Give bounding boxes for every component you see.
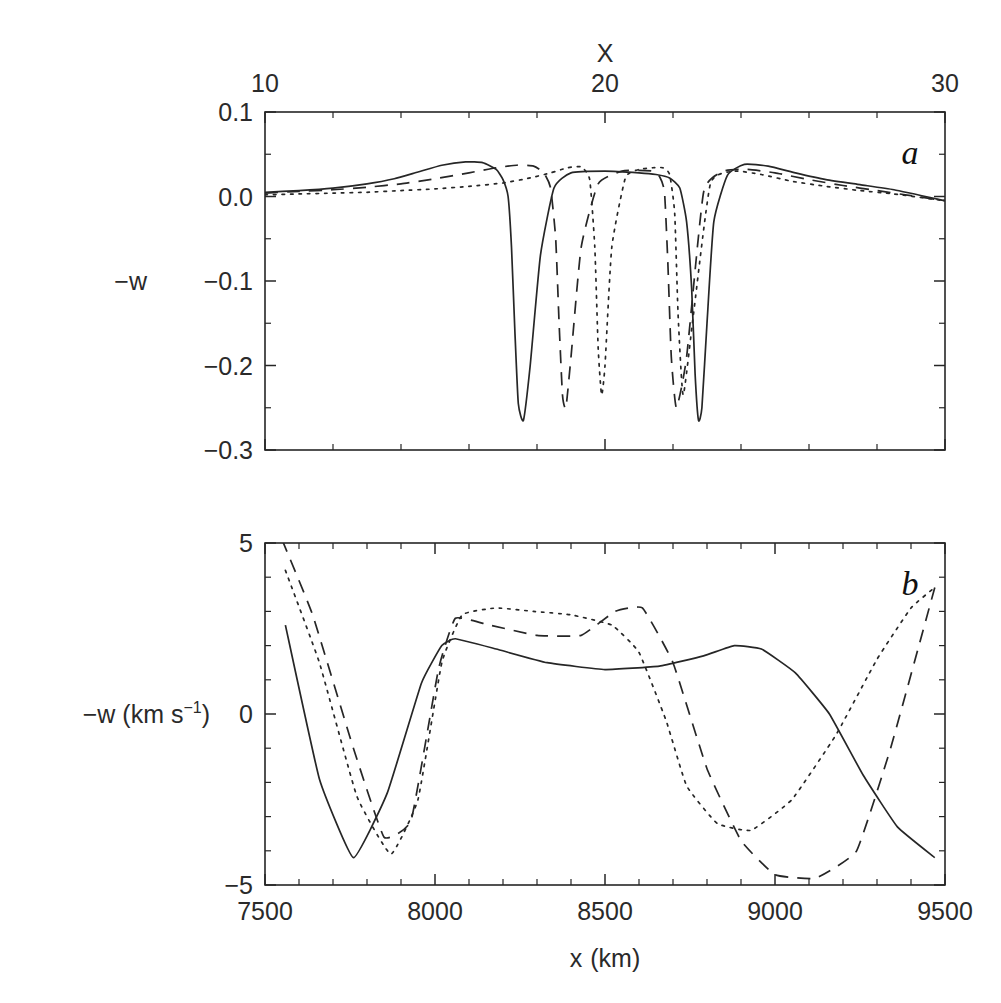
panel-b-curve-solid [285, 625, 934, 858]
panel-a-y-tick-label: −0.3 [204, 436, 253, 464]
scientific-figure: X1020300.10.0−0.1−0.2−0.3−wa750080008500… [0, 0, 1001, 1003]
figure-canvas: X1020300.10.0−0.1−0.2−0.3−wa750080008500… [0, 0, 1001, 1003]
panel-a-label: a [902, 134, 919, 171]
panel-b-y-axis-label: −w (km s−1) [83, 699, 210, 728]
panel-b [265, 543, 945, 885]
panel-b-y-tick-label: 0 [239, 700, 253, 728]
panel-a-curve-dotted [265, 167, 945, 396]
panel-a-y-tick-label: 0.0 [218, 183, 253, 211]
panel-b-frame [265, 543, 945, 885]
panel-a-y-tick-label: 0.1 [218, 98, 253, 126]
panel-b-x-axis-title-text: x(km) [570, 944, 640, 972]
panel-a-y-axis-label: −w [114, 267, 148, 295]
panel-a-curve-dashed [265, 165, 945, 408]
x-symbol: x [570, 944, 583, 972]
panel-a-top-tick-label: 30 [931, 69, 959, 97]
panel-b-curve-dotted [285, 570, 934, 854]
panel-b-label: b [902, 565, 919, 602]
panel-a-curve-solid [265, 162, 945, 421]
panel-a-y-tick-label: −0.2 [204, 352, 253, 380]
panel-b-curve-dashed [282, 540, 935, 879]
panel-a [265, 112, 945, 450]
panel-a-y-tick-label: −0.1 [204, 267, 253, 295]
panel-a-top-axis-title: X [597, 39, 614, 67]
panel-b-x-tick-label: 7500 [237, 897, 293, 925]
panel-b-y-tick-label: 5 [239, 529, 253, 557]
panel-a-top-tick-label: 10 [251, 69, 279, 97]
panel-b-x-tick-label: 8000 [407, 897, 463, 925]
panel-b-x-tick-label: 9000 [747, 897, 803, 925]
panel-a-top-tick-label: 20 [591, 69, 619, 97]
panel-b-y-tick-label: −5 [224, 871, 253, 899]
panel-b-x-tick-label: 8500 [577, 897, 633, 925]
closing-paren: ) [202, 700, 210, 728]
w-symbol: −w (km s [83, 700, 184, 728]
panel-a-frame [265, 112, 945, 450]
panel-b-x-axis-title: x(km) [570, 944, 640, 972]
exponent: −1 [183, 699, 201, 716]
x-unit: (km) [590, 944, 640, 972]
panel-b-x-tick-label: 9500 [917, 897, 973, 925]
